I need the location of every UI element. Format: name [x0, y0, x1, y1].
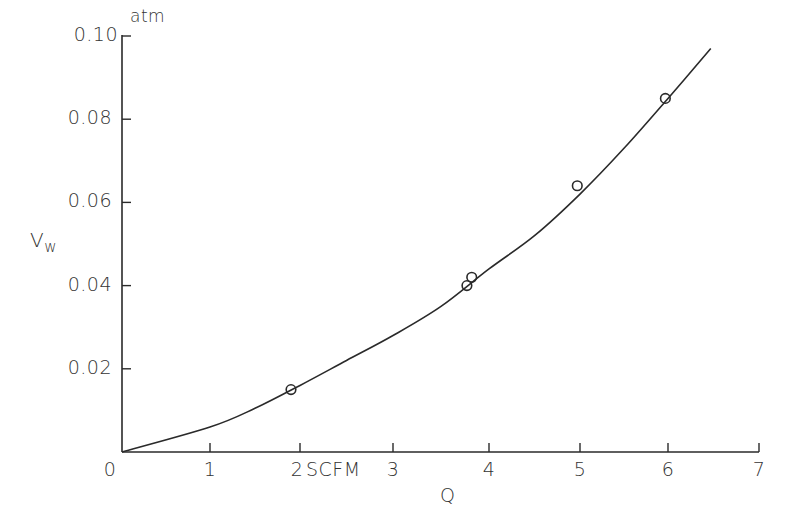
y-tick-label: 0.10 — [30, 23, 118, 45]
y-unit-label: atm — [130, 6, 165, 26]
plot-area — [0, 0, 788, 530]
x-tick-label: 5 — [565, 458, 595, 480]
y-tick-label: 0.08 — [22, 106, 112, 128]
x-unit-label: SCFM — [306, 458, 361, 480]
x-tick-label: 6 — [653, 458, 683, 480]
x-tick-label: 0 — [95, 458, 125, 480]
y-axis-title-main: V — [30, 228, 44, 252]
x-axis-title: Q — [440, 484, 455, 506]
x-tick-label: 1 — [195, 458, 225, 480]
y-tick-label: 0.02 — [22, 356, 112, 378]
x-tick-label: 4 — [474, 458, 504, 480]
x-tick-label: 7 — [744, 458, 774, 480]
data-point — [467, 272, 477, 282]
data-points — [286, 94, 670, 395]
y-tick-label: 0.04 — [22, 273, 112, 295]
y-tick-label: 0.06 — [22, 189, 112, 211]
y-axis-title: Vw — [30, 228, 57, 256]
fit-curve — [122, 48, 711, 452]
y-axis-title-sub: w — [44, 238, 57, 256]
axes — [122, 35, 759, 452]
tick-marks — [122, 36, 759, 452]
data-point — [572, 181, 582, 191]
x-tick-label: 3 — [378, 458, 408, 480]
